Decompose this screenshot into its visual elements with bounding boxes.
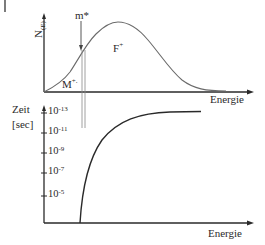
tick-label: 10-13: [48, 106, 68, 117]
bottom-x-axis-arrow-icon: [247, 221, 254, 226]
tick-label: 10-9: [48, 146, 64, 157]
m-plus-label: M+.: [62, 78, 77, 90]
top-y-axis-label: N(E): [32, 21, 47, 38]
tick-label: 10-7: [48, 166, 64, 177]
bottom-x-axis-label: Energie: [208, 228, 242, 239]
f-plus-label: F+: [113, 42, 123, 54]
top-x-axis-label: Energie: [210, 94, 244, 105]
bottom-y-axis-label-line2: [sec]: [12, 119, 33, 130]
m-star-label: m*: [75, 10, 89, 21]
bottom-y-axis-arrow-icon: [42, 105, 46, 111]
rate-curve: [80, 112, 201, 224]
top-x-axis-arrow-icon: [247, 90, 254, 95]
bottom-y-axis-label-line1: Zeit: [12, 104, 30, 115]
tick-label: 10-5: [48, 189, 64, 200]
top-y-axis-arrow-icon: [42, 13, 46, 19]
tick-label: 10-11: [48, 126, 68, 137]
